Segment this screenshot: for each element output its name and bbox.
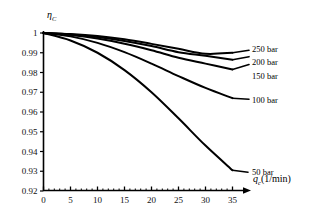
y-tick-label: 0.92 bbox=[22, 186, 38, 196]
efficiency-vs-flow-chart: 0.920.930.940.950.960.970.980.991 051015… bbox=[0, 0, 321, 218]
series-label-150-bar: 150 bar bbox=[252, 71, 278, 81]
y-axis-tick-labels: 0.920.930.940.950.960.970.980.991 bbox=[22, 28, 38, 196]
y-tick-label: 0.94 bbox=[22, 147, 38, 157]
x-tick-label: 0 bbox=[41, 195, 46, 205]
series-label-250-bar: 250 bar bbox=[252, 44, 278, 54]
series-leader-line bbox=[233, 98, 250, 99]
x-tick-label: 15 bbox=[120, 195, 130, 205]
y-tick-label: 1 bbox=[33, 28, 38, 38]
x-tick-label: 10 bbox=[93, 195, 103, 205]
y-tick-label: 0.93 bbox=[22, 166, 38, 176]
series-label-200-bar: 200 bar bbox=[252, 57, 278, 67]
y-tick-label: 0.97 bbox=[22, 87, 38, 97]
x-tick-label: 30 bbox=[201, 195, 211, 205]
chart-container: 0.920.930.940.950.960.970.980.991 051015… bbox=[0, 0, 321, 218]
y-tick-label: 0.99 bbox=[22, 48, 38, 58]
series-label-50-bar: 50 bar bbox=[252, 167, 274, 177]
y-tick-label: 0.98 bbox=[22, 68, 38, 78]
y-tick-label: 0.95 bbox=[22, 127, 38, 137]
x-tick-label: 5 bbox=[68, 195, 73, 205]
series-label-100-bar: 100 bar bbox=[252, 95, 278, 105]
x-tick-label: 25 bbox=[174, 195, 184, 205]
y-axis-subscript: C bbox=[52, 15, 57, 22]
y-tick-label: 0.96 bbox=[22, 107, 38, 117]
x-tick-label: 20 bbox=[147, 195, 157, 205]
x-tick-label: 35 bbox=[228, 195, 238, 205]
